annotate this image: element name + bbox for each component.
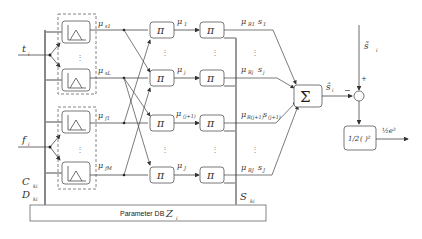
s-ki-label: S (240, 191, 247, 202)
mu-rj1-sj1: μ (241, 110, 246, 119)
half-e-squared-label: ½e² (382, 127, 396, 135)
pi-box: π (200, 22, 224, 38)
membership-box (62, 111, 90, 133)
d-ki-label: D (21, 189, 30, 200)
sj: s (258, 65, 262, 74)
sigma-symbol: Σ (300, 88, 311, 106)
pi-box: π (150, 22, 174, 38)
mu-fsl-sub: sL (105, 70, 112, 76)
parameter-db-label: Parameter DB (120, 210, 165, 217)
pi-box: π (150, 70, 174, 86)
sj1-sub: (j+1) (268, 114, 281, 121)
square-fn: ( )² (360, 135, 371, 143)
input-t-label: t (22, 43, 27, 54)
membership-box (62, 162, 90, 184)
input-f-sub: i (28, 141, 30, 147)
pi-symbol: π (156, 24, 165, 37)
c-ki-label: C (22, 176, 30, 187)
half-fraction: 1/2 (348, 135, 360, 143)
mu-r1-s1-sub: R1 (247, 21, 255, 27)
pi-box: π (150, 115, 174, 131)
s-tilde-sub: i (376, 47, 378, 53)
vdots: ⋮ (76, 145, 84, 154)
mu-rj1-sub: (j+1) (183, 113, 196, 120)
mu-r1-sub: 1 (184, 21, 187, 27)
vdots: ⋮ (161, 48, 169, 57)
input-f-label: f (21, 134, 28, 145)
mu-rj1-sj1-sub: R(j+1) (246, 114, 264, 121)
mu-r1: μ (177, 17, 182, 26)
mu-rj-sub: j (183, 69, 186, 76)
mu-fs1: μ (98, 19, 103, 28)
vdots: ⋮ (161, 145, 169, 154)
d-ki-sub: ki (33, 196, 38, 202)
c-ki-sub: ki (33, 183, 38, 189)
pi-symbol: π (206, 72, 215, 85)
s1: s (258, 17, 262, 26)
sj1: s (263, 110, 267, 119)
mu-rj1: μ (176, 109, 181, 118)
mu-ff1: μ (98, 111, 103, 120)
mu-rJ-sub: J (183, 165, 187, 172)
membership-box (62, 21, 90, 43)
pi-box: π (200, 115, 224, 131)
summing-junction (354, 91, 364, 101)
half-square-box: 1/2 ( )² (344, 126, 376, 150)
s-hat-sub: i (332, 87, 334, 93)
s1-sub: 1 (263, 21, 266, 27)
input-t-sub: i (28, 51, 30, 57)
mu-rj-sj: μ (241, 65, 246, 74)
sj-sub: j (262, 69, 265, 76)
mu-rJ-sJ: μ (241, 163, 246, 172)
vdots: ⋮ (211, 145, 219, 154)
mu-ffm-sub: fM (104, 165, 113, 172)
pi-box: π (200, 70, 224, 86)
plus-sign: + (361, 75, 367, 83)
vdots: ⋮ (211, 48, 219, 57)
z-label: Z (165, 208, 174, 219)
pi-symbol: π (206, 24, 215, 37)
fuzzy-network-diagram: Parameter DB Z i S ki t i f i C ki D ki (0, 0, 422, 239)
mu-ffm: μ (98, 161, 103, 170)
mu-rj: μ (177, 65, 182, 74)
pi-box: π (200, 167, 224, 183)
s-hat-label: ŝ (326, 82, 331, 92)
mu-fs1-sub: s1 (105, 23, 111, 29)
minus-sign: − (344, 86, 351, 95)
vdots: ⋮ (251, 48, 259, 57)
vdots: ⋮ (251, 145, 259, 154)
membership-box (62, 69, 90, 91)
pi-symbol: π (156, 117, 165, 130)
pi-box: π (150, 167, 174, 183)
pi-symbol: π (206, 169, 215, 182)
sum-box: Σ (294, 85, 322, 107)
pi-symbol: π (206, 117, 215, 130)
sJ: s (258, 163, 262, 172)
mu-fsl: μ (98, 66, 103, 75)
vdots: ⋮ (76, 53, 84, 62)
mu-ff1-sub: f1 (104, 115, 110, 122)
pi-symbol: π (156, 72, 165, 85)
mu-r1-s1: μ (241, 17, 246, 26)
s-ki-sub: ki (250, 198, 255, 204)
pi-symbol: π (156, 169, 165, 182)
s-tilde-label: s̃ (364, 41, 369, 51)
sJ-sub: J (262, 167, 266, 174)
mu-rj-sj-sub: Rj (247, 69, 254, 76)
mu-rJ-sJ-sub: RJ (247, 167, 255, 174)
mu-rJ: μ (177, 161, 182, 170)
